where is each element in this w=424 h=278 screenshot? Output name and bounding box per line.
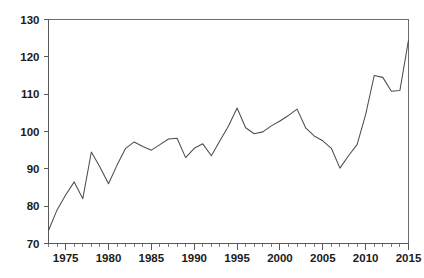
x-tick-label: 1985 <box>139 252 165 264</box>
y-tick-label: 80 <box>27 200 40 212</box>
x-axis-tick-labels: 197519801985199019952000200520102015 <box>53 252 422 264</box>
y-tick-label: 90 <box>27 163 40 175</box>
chart-canvas: 708090100110120130 197519801985199019952… <box>0 0 424 278</box>
y-tick-label: 100 <box>20 126 39 138</box>
line-chart: 708090100110120130 197519801985199019952… <box>0 0 424 278</box>
y-tick-label: 120 <box>20 51 39 63</box>
x-tick-label: 2010 <box>353 252 379 264</box>
y-tick-label: 110 <box>21 88 40 100</box>
x-tick-label: 1980 <box>96 252 122 264</box>
y-tick-label: 130 <box>20 14 39 26</box>
x-axis-ticks <box>49 244 409 250</box>
y-axis-ticks <box>44 20 49 244</box>
y-tick-label: 70 <box>27 238 40 250</box>
x-tick-label: 1995 <box>224 252 250 264</box>
x-tick-label: 1990 <box>181 252 207 264</box>
x-tick-label: 1975 <box>53 252 79 264</box>
series-line <box>49 40 409 230</box>
x-tick-label: 2000 <box>267 252 293 264</box>
data-series <box>49 40 409 230</box>
x-tick-label: 2015 <box>396 252 422 264</box>
plot-frame <box>49 20 409 244</box>
y-axis-tick-labels: 708090100110120130 <box>20 14 39 250</box>
x-tick-label: 2005 <box>310 252 336 264</box>
